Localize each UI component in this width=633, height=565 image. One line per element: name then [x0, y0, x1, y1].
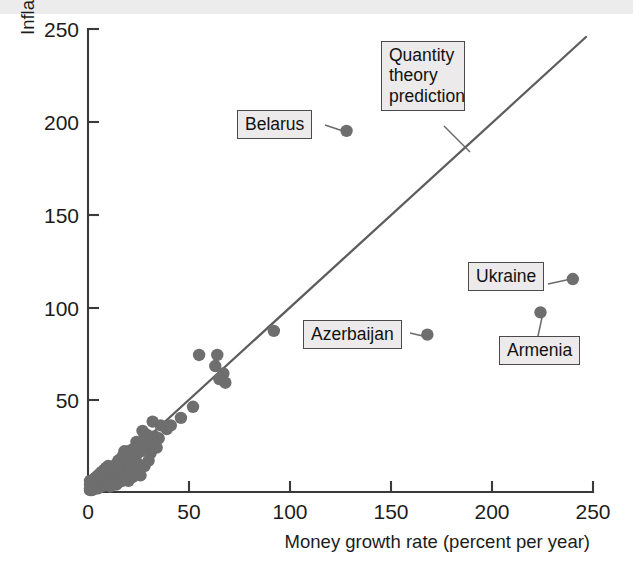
data-point [193, 349, 205, 361]
data-point [534, 306, 546, 318]
y-tick-label-250: 250 [44, 18, 79, 41]
y-axis-title: Inflation rate (percent per year) [17, 0, 38, 35]
callout-belarus: Belarus [237, 110, 312, 139]
data-point [268, 325, 280, 337]
callout-ukraine: Ukraine [468, 262, 544, 291]
y-tick-label-150: 150 [44, 204, 79, 227]
data-point [567, 273, 579, 285]
scatter-points [84, 125, 579, 497]
y-tick-label-100: 100 [44, 297, 79, 320]
data-point [136, 425, 148, 437]
callout-armenia: Armenia [499, 336, 580, 365]
x-tick-label-250: 250 [575, 500, 610, 523]
y-tick-label-50: 50 [56, 389, 79, 412]
x-tick-label-50: 50 [177, 500, 200, 523]
callout-quantity-theory: Quantity theory prediction [381, 41, 465, 111]
x-axis-ticks [189, 481, 593, 492]
y-tick-label-200: 200 [44, 111, 79, 134]
data-point [421, 328, 433, 340]
data-point [187, 401, 199, 413]
data-point [118, 445, 130, 457]
leader-line-quantity-theory [444, 126, 470, 152]
x-tick-label-100: 100 [272, 500, 307, 523]
data-point [175, 412, 187, 424]
data-point [104, 480, 116, 492]
data-point [219, 377, 231, 389]
data-point [209, 360, 221, 372]
scatter-chart-figure: 250 200 150 100 50 0 50 100 150 200 250 … [0, 0, 633, 565]
data-point [211, 349, 223, 361]
data-point [84, 475, 96, 487]
x-tick-label-200: 200 [474, 500, 509, 523]
callout-azerbaijan: Azerbaijan [303, 320, 402, 349]
data-point [340, 125, 352, 137]
x-tick-label-0: 0 [82, 500, 94, 523]
x-axis-title: Money growth rate (percent per year) [285, 531, 590, 552]
data-point [146, 415, 158, 427]
y-axis-ticks [88, 29, 99, 400]
data-point [124, 465, 136, 477]
x-tick-label-150: 150 [373, 500, 408, 523]
